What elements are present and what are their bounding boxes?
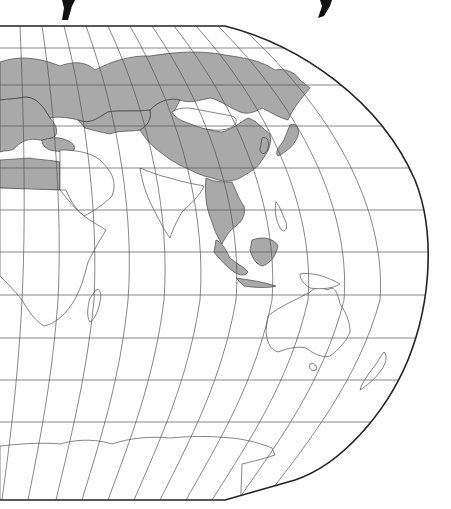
map-svg — [0, 0, 451, 509]
india-region — [140, 168, 204, 238]
turkey-region — [42, 138, 75, 152]
java-region — [236, 278, 276, 288]
tasmania-region — [309, 363, 316, 370]
philippines-region — [275, 202, 286, 231]
new-guinea-region — [300, 273, 340, 288]
map-content — [0, 26, 451, 509]
north-africa-region — [0, 158, 60, 190]
world-map — [0, 0, 451, 509]
japan-region — [277, 124, 299, 156]
right-bracket-fragment — [318, 0, 332, 18]
malaysia-indonesia-region — [214, 240, 248, 275]
left-bracket-fragment — [62, 0, 75, 20]
new-zealand-region — [360, 352, 386, 390]
southeast-asia-region — [205, 178, 244, 244]
